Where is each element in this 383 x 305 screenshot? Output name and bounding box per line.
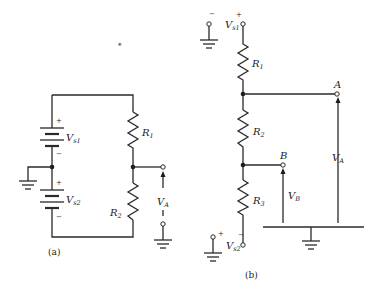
va-label-a: VA bbox=[157, 196, 169, 209]
node-b-label: B bbox=[279, 150, 287, 161]
vs1-plus-sign: + bbox=[56, 117, 62, 125]
va-arrowhead-icon-b bbox=[336, 97, 341, 103]
node-a-label: A bbox=[333, 79, 341, 90]
vs1-label-b: Vs1 bbox=[225, 19, 240, 32]
terminal-vs1-plus bbox=[241, 22, 245, 26]
wire-ground-a bbox=[28, 167, 52, 181]
terminal-vs1-minus bbox=[207, 22, 211, 26]
ground-icon-b-top bbox=[200, 40, 218, 48]
vs2-minus-sign-b: − bbox=[238, 231, 244, 239]
vs2-plus-sign-b: + bbox=[218, 230, 224, 238]
ground-icon-a-right bbox=[154, 240, 172, 248]
caption-b: (b) bbox=[245, 270, 258, 280]
resistor-r2-a bbox=[128, 183, 138, 220]
vb-arrowhead-icon bbox=[281, 168, 286, 174]
vs2-minus-sign: − bbox=[56, 213, 62, 221]
ground-icon-b-bottom bbox=[204, 253, 222, 261]
va-arrowhead-icon bbox=[161, 171, 166, 177]
caption-a: (a) bbox=[48, 247, 60, 257]
vs2-plus-sign: + bbox=[56, 179, 62, 187]
r1-label-b: R1 bbox=[251, 58, 264, 71]
ground-icon-b-bus bbox=[302, 241, 320, 249]
terminal-node-b bbox=[281, 163, 285, 167]
r2-label-a: R2 bbox=[109, 207, 122, 220]
terminal-node-a bbox=[335, 92, 339, 96]
terminal-output-bottom bbox=[161, 222, 165, 226]
resistor-r1-a bbox=[128, 112, 138, 183]
terminal-output-top bbox=[161, 165, 165, 169]
resistor-r2-b bbox=[238, 110, 248, 180]
vb-label: VB bbox=[288, 190, 300, 203]
vs2-label: Vs2 bbox=[66, 194, 81, 207]
resistor-r1-b bbox=[238, 26, 248, 110]
vs1-minus-sign-b: − bbox=[209, 10, 215, 18]
vs2-label-b: Vs2 bbox=[226, 240, 241, 253]
vs1-minus-sign: − bbox=[56, 150, 62, 158]
panel-a: + − Vs1 + − Vs2 R1 R2 bbox=[19, 95, 172, 257]
battery-vs1 bbox=[40, 128, 64, 146]
terminal-vs2-minus bbox=[241, 243, 245, 247]
r1-label-a: R1 bbox=[141, 127, 154, 140]
r2-label-b: R2 bbox=[252, 126, 265, 139]
vs1-plus-sign-b: + bbox=[236, 11, 242, 19]
stray-mark: * bbox=[118, 42, 122, 50]
terminal-vs2-plus bbox=[211, 235, 215, 239]
wire-top bbox=[52, 95, 133, 112]
panel-b: − Vs1 + R1 A R2 B R3 − Vs2 + bbox=[200, 10, 364, 280]
ground-icon-a-left bbox=[19, 181, 37, 189]
vs1-label: Vs1 bbox=[66, 132, 81, 145]
circuit-diagram: * + − Vs1 + − bbox=[0, 0, 383, 305]
r3-label-b: R3 bbox=[252, 195, 265, 208]
battery-vs2 bbox=[40, 190, 64, 208]
